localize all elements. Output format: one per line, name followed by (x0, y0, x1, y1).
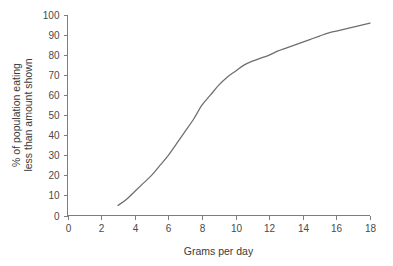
y-axis-title-line-1: % of population eating (10, 63, 22, 167)
x-tick-label: 18 (365, 223, 377, 234)
line-chart: 0102030405060708090100 024681012141618 G… (0, 0, 393, 266)
x-tick-label: 16 (331, 223, 343, 234)
x-axis-title: Grams per day (184, 245, 254, 257)
y-tick-label: 20 (48, 170, 60, 181)
y-axis-title-line-2: less than amount shown (22, 58, 34, 171)
y-tick-mark-group (64, 16, 68, 217)
x-tick-label: 14 (298, 223, 310, 234)
y-tick-label: 90 (48, 30, 60, 41)
chart-container: 0102030405060708090100 024681012141618 G… (0, 0, 393, 266)
x-tick-label: 10 (231, 223, 243, 234)
data-series-line (118, 23, 370, 205)
y-tick-label: 40 (48, 130, 60, 141)
y-tick-label: 60 (48, 90, 60, 101)
y-tick-label: 100 (43, 10, 60, 21)
x-tick-label: 2 (99, 223, 105, 234)
x-tick-label-group: 024681012141618 (66, 223, 377, 234)
y-tick-label: 80 (48, 50, 60, 61)
x-tick-label: 6 (166, 223, 172, 234)
x-tick-mark-group (69, 216, 371, 220)
y-tick-label: 50 (48, 110, 60, 121)
x-tick-label: 0 (66, 223, 72, 234)
x-tick-label: 4 (133, 223, 139, 234)
x-tick-label: 12 (264, 223, 276, 234)
y-tick-label: 10 (48, 190, 60, 201)
y-tick-label: 70 (48, 70, 60, 81)
y-tick-label-group: 0102030405060708090100 (43, 10, 60, 222)
y-tick-label: 30 (48, 150, 60, 161)
x-tick-label: 8 (200, 223, 206, 234)
y-tick-label: 0 (54, 211, 60, 222)
